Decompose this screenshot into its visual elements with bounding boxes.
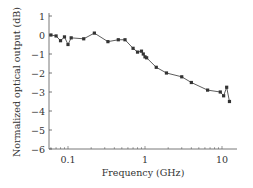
data-point-marker [180,75,183,78]
y-axis-title: Normalized optical output (dB) [11,7,22,157]
x-axis-title: Frequency (GHz) [102,167,185,178]
data-point-marker [93,32,96,35]
x-tick-label: 10 [216,154,228,165]
x-tick-label: 0.1 [60,154,75,165]
data-point-marker [155,66,158,69]
data-point-marker [140,50,143,53]
y-axis: 10−1−2−3−4−5−6 [31,11,52,155]
data-point-marker [225,86,228,89]
x-tick-label: 1 [142,154,148,165]
data-point-marker [66,43,69,46]
data-point-marker [131,47,134,50]
x-axis: 0.1110 [49,146,237,165]
y-tick-label: −1 [31,49,45,60]
y-tick-label: 0 [39,30,45,41]
data-point-marker [145,56,148,59]
y-tick-label: 1 [39,11,45,22]
y-tick-label: −5 [31,125,45,136]
data-point-marker [206,89,209,92]
data-point-marker [219,90,222,93]
y-tick-label: −6 [31,144,45,155]
data-point-marker [117,38,120,41]
data-point-marker [63,35,66,38]
data-point-marker [123,38,126,41]
data-point-marker [165,71,168,74]
y-tick-label: −2 [31,68,45,79]
data-point-marker [49,33,52,36]
series-line [51,33,230,101]
data-point-marker [136,51,139,54]
data-point-marker [228,100,231,103]
data-series [49,32,231,104]
data-point-marker [190,81,193,84]
data-point-marker [59,39,62,42]
data-point-marker [142,52,145,55]
data-point-marker [54,34,57,37]
data-point-marker [82,37,85,40]
data-point-marker [106,40,109,43]
y-tick-label: −3 [31,87,45,98]
y-tick-label: −4 [31,106,45,117]
data-point-marker [70,36,73,39]
chart: 10−1−2−3−4−5−6 0.1110 Frequency (GHz) No… [0,0,253,188]
data-point-marker [222,94,225,97]
